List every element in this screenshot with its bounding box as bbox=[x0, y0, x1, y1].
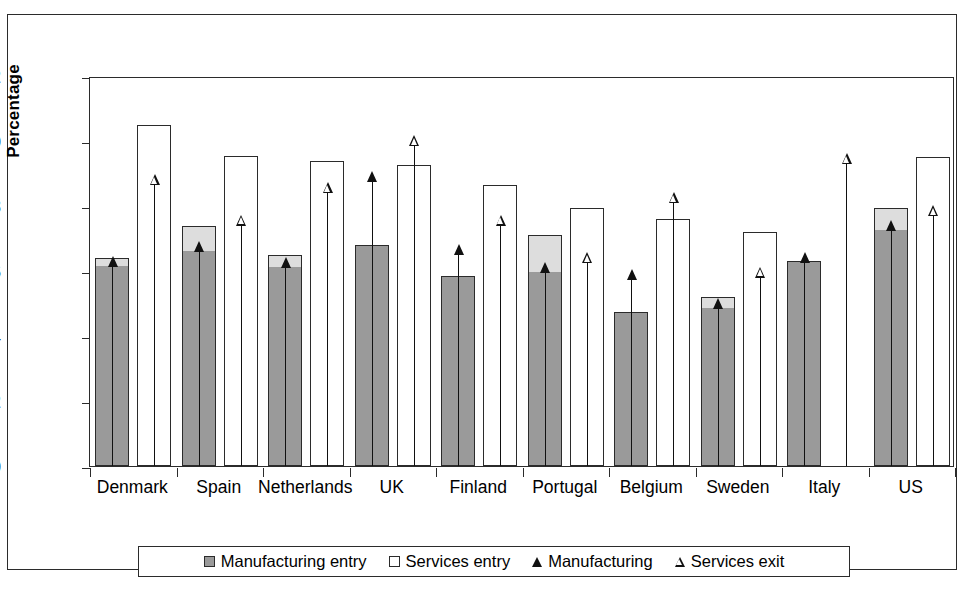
x-tick-mark bbox=[696, 468, 697, 477]
open-triangle-icon bbox=[496, 215, 506, 226]
x-axis-category-label: Finland bbox=[450, 477, 507, 498]
chart-page: Percentage 024681012 DenmarkSpainNetherl… bbox=[0, 0, 971, 599]
x-tick-mark bbox=[90, 468, 91, 477]
open-triangle-icon bbox=[582, 252, 592, 263]
open-triangle-icon bbox=[236, 215, 246, 226]
hollow-square-icon bbox=[389, 556, 400, 567]
x-axis-category-label: Sweden bbox=[706, 477, 769, 498]
x-tick-mark bbox=[523, 468, 524, 477]
solid-triangle-icon bbox=[713, 298, 723, 309]
legend-item-label: Services entry bbox=[406, 552, 511, 571]
manufacturing-exit-arrow bbox=[372, 180, 373, 466]
bar-group bbox=[609, 78, 696, 466]
legend-item-label: Manufacturing bbox=[548, 552, 653, 571]
open-triangle-icon bbox=[323, 182, 333, 193]
services-exit-arrow bbox=[673, 201, 674, 466]
x-tick-mark bbox=[782, 468, 783, 477]
solid-triangle-icon bbox=[886, 220, 896, 231]
legend-item-label: Manufacturing entry bbox=[221, 552, 367, 571]
legend-item[interactable]: Manufacturing entry bbox=[204, 552, 367, 571]
legend-item[interactable]: Services entry bbox=[389, 552, 511, 571]
manufacturing-exit-arrow bbox=[804, 261, 805, 466]
open-triangle-icon bbox=[675, 557, 685, 567]
open-triangle-icon bbox=[842, 153, 852, 164]
filled-square-icon bbox=[204, 556, 215, 567]
services-exit-arrow bbox=[587, 261, 588, 466]
x-axis-category-label: Portugal bbox=[532, 477, 597, 498]
solid-triangle-icon bbox=[108, 256, 118, 267]
x-tick-mark bbox=[177, 468, 178, 477]
manufacturing-exit-arrow bbox=[545, 271, 546, 466]
y-tick-mark bbox=[82, 273, 90, 274]
x-tick-mark bbox=[609, 468, 610, 477]
y-tick-label: 4 bbox=[0, 329, 1, 347]
x-axis-category-label: Italy bbox=[808, 477, 840, 498]
open-triangle-icon bbox=[755, 267, 765, 278]
open-triangle-icon bbox=[669, 192, 679, 203]
services-exit-arrow bbox=[154, 183, 155, 466]
y-axis-title: Percentage bbox=[4, 31, 24, 191]
services-exit-arrow bbox=[846, 162, 847, 466]
manufacturing-exit-arrow bbox=[199, 250, 200, 466]
open-triangle-icon bbox=[928, 205, 938, 216]
services-exit-arrow bbox=[241, 224, 242, 466]
y-tick-label: 0 bbox=[0, 459, 1, 477]
y-tick-mark bbox=[82, 143, 90, 144]
solid-triangle-icon bbox=[367, 171, 377, 182]
bar-group bbox=[696, 78, 783, 466]
x-tick-mark bbox=[955, 468, 956, 477]
y-tick-label: 10 bbox=[0, 134, 1, 152]
plot-area: 024681012 bbox=[89, 77, 954, 467]
y-tick-mark bbox=[82, 78, 90, 79]
bar-group bbox=[782, 78, 869, 466]
solid-triangle-icon bbox=[532, 557, 542, 567]
bar-group bbox=[436, 78, 523, 466]
legend-item-label: Services exit bbox=[691, 552, 785, 571]
bar-group bbox=[350, 78, 437, 466]
y-tick-mark bbox=[82, 338, 90, 339]
y-tick-label: 2 bbox=[0, 394, 1, 412]
x-tick-mark bbox=[869, 468, 870, 477]
y-tick-label: 12 bbox=[0, 69, 1, 87]
open-triangle-icon bbox=[409, 135, 419, 146]
x-axis-category-label: US bbox=[899, 477, 923, 498]
legend-item[interactable]: Services exit bbox=[675, 552, 785, 571]
services-exit-arrow bbox=[760, 276, 761, 466]
legend-item[interactable]: Manufacturing bbox=[532, 552, 653, 571]
manufacturing-exit-arrow bbox=[112, 265, 113, 467]
page-border-frame: Percentage 024681012 DenmarkSpainNetherl… bbox=[7, 14, 957, 570]
x-axis-category-label: Spain bbox=[196, 477, 241, 498]
x-axis-category-label: UK bbox=[380, 477, 404, 498]
solid-triangle-icon bbox=[454, 244, 464, 255]
y-tick-mark bbox=[82, 468, 90, 469]
solid-triangle-icon bbox=[540, 262, 550, 273]
manufacturing-exit-arrow bbox=[631, 278, 632, 467]
x-axis-category-label: Netherlands bbox=[258, 477, 352, 498]
services-exit-arrow bbox=[933, 214, 934, 466]
open-triangle-icon bbox=[150, 174, 160, 185]
solid-triangle-icon bbox=[281, 257, 291, 268]
bar-group bbox=[177, 78, 264, 466]
y-tick-label: 6 bbox=[0, 264, 1, 282]
y-tick-label: 8 bbox=[0, 199, 1, 217]
bar-group bbox=[263, 78, 350, 466]
x-tick-mark bbox=[263, 468, 264, 477]
services-exit-arrow bbox=[414, 144, 415, 466]
x-tick-mark bbox=[350, 468, 351, 477]
bar-group bbox=[90, 78, 177, 466]
bar-group bbox=[523, 78, 610, 466]
bar-group bbox=[869, 78, 956, 466]
y-tick-mark bbox=[82, 208, 90, 209]
manufacturing-exit-arrow bbox=[285, 266, 286, 466]
manufacturing-exit-arrow bbox=[718, 307, 719, 466]
services-exit-arrow bbox=[500, 224, 501, 466]
chart-legend: Manufacturing entryServices entryManufac… bbox=[138, 546, 850, 577]
x-axis-category-label: Belgium bbox=[620, 477, 683, 498]
solid-triangle-icon bbox=[627, 269, 637, 280]
services-exit-arrow bbox=[327, 191, 328, 466]
manufacturing-exit-arrow bbox=[458, 253, 459, 466]
x-tick-mark bbox=[436, 468, 437, 477]
solid-triangle-icon bbox=[194, 241, 204, 252]
solid-triangle-icon bbox=[800, 252, 810, 263]
y-tick-mark bbox=[82, 403, 90, 404]
